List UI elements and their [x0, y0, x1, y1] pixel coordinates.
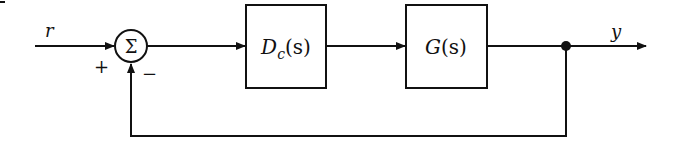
controller-label: Dc(s) [260, 35, 311, 62]
plant-label: G(s) [425, 35, 467, 59]
sigma-symbol: Σ [125, 36, 138, 57]
feedback-path [131, 46, 566, 136]
controller-block: Dc(s) [246, 5, 326, 88]
input-label: r [45, 20, 55, 41]
minus-sign: − [142, 63, 157, 84]
output-label: y [610, 21, 622, 42]
summing-junction: Σ [115, 30, 147, 62]
plant-block: G(s) [406, 5, 487, 88]
block-diagram: r Σ + − Dc(s) G(s) y [0, 0, 674, 150]
plus-sign: + [94, 56, 109, 77]
